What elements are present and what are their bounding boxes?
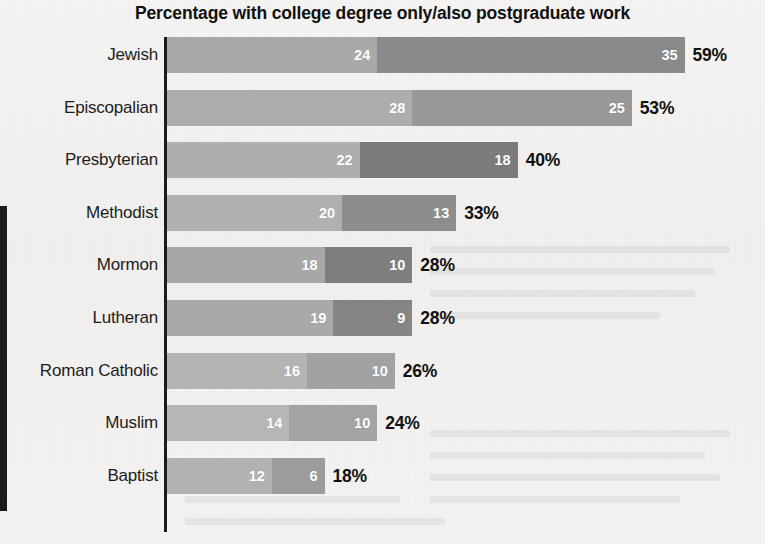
bar-row: Roman Catholic161026% [0,353,765,389]
stacked-bar: 1410 [167,405,378,441]
bar-segment-degree-only: 19 [167,300,334,336]
bar-segment-postgraduate: 6 [272,458,325,494]
bar-segment-value: 13 [433,205,456,221]
bar-group: 141024% [167,405,420,441]
bar-segment-value: 20 [319,205,342,221]
bar-group: 19928% [167,300,455,336]
bar-segment-value: 6 [309,468,324,484]
bar-row: Muslim141024% [0,405,765,441]
bar-group: 201333% [167,195,499,231]
bar-row-total: 33% [464,203,498,224]
bar-row-total: 24% [385,413,419,434]
bar-row: Episcopalian282553% [0,90,765,126]
bar-row-total: 53% [640,98,674,119]
stacked-bar: 2825 [167,90,632,126]
bar-segment-degree-only: 20 [167,195,343,231]
bar-group: 161026% [167,353,438,389]
bar-row: Baptist12618% [0,458,765,494]
bar-segment-degree-only: 24 [167,37,378,73]
bar-segment-value: 10 [354,415,377,431]
bar-segment-value: 19 [310,310,333,326]
bar-segment-postgraduate: 10 [325,247,413,283]
bar-group: 243559% [167,37,727,73]
bar-group: 181028% [167,247,455,283]
bar-row-total: 28% [420,255,454,276]
bar-segment-degree-only: 14 [167,405,290,441]
bar-row-label: Mormon [0,255,166,275]
chart-page: Percentage with college degree only/also… [0,0,765,544]
bar-segment-postgraduate: 13 [342,195,456,231]
bar-segment-value: 10 [389,257,412,273]
bar-row-total: 28% [420,308,454,329]
chart-title: Percentage with college degree only/also… [0,3,765,24]
bar-group: 12618% [167,458,367,494]
bar-segment-value: 16 [284,363,307,379]
stacked-bar: 126 [167,458,325,494]
bar-segment-postgraduate: 10 [307,353,395,389]
bar-row: Jewish243559% [0,37,765,73]
bar-row-label: Jewish [0,45,166,65]
bar-segment-degree-only: 22 [167,142,360,178]
bar-row-label: Roman Catholic [0,361,166,381]
bar-segment-value: 12 [249,468,272,484]
bar-segment-degree-only: 12 [167,458,272,494]
stacked-bar: 199 [167,300,413,336]
bar-segment-value: 24 [354,47,377,63]
bar-row-label: Baptist [0,466,166,486]
bar-row-total: 18% [333,466,367,487]
bar-segment-value: 14 [266,415,289,431]
bar-segment-degree-only: 18 [167,247,325,283]
bar-segment-value: 25 [609,100,632,116]
bar-row-label: Episcopalian [0,98,166,118]
stacked-bar: 2435 [167,37,685,73]
bar-row-label: Lutheran [0,308,166,328]
bar-segment-postgraduate: 18 [360,142,518,178]
bar-segment-value: 28 [389,100,412,116]
bar-row-label: Presbyterian [0,150,166,170]
bar-segment-value: 35 [661,47,684,63]
bar-segment-value: 22 [337,152,360,168]
bar-row: Presbyterian221840% [0,142,765,178]
bar-row-label: Muslim [0,413,166,433]
stacked-bar: 1810 [167,247,413,283]
stacked-bar: 2218 [167,142,518,178]
bar-segment-postgraduate: 25 [412,90,632,126]
bar-row-total: 59% [693,45,727,66]
plot-area: Jewish243559%Episcopalian282553%Presbyte… [0,36,765,536]
bar-segment-value: 18 [495,152,518,168]
bar-segment-degree-only: 16 [167,353,307,389]
bar-row-label: Methodist [0,203,166,223]
bar-row: Methodist201333% [0,195,765,231]
stacked-bar: 1610 [167,353,395,389]
bar-segment-value: 10 [372,363,395,379]
bar-row-total: 40% [526,150,560,171]
bar-segment-postgraduate: 9 [333,300,412,336]
bar-segment-value: 9 [397,310,412,326]
bar-row: Lutheran19928% [0,300,765,336]
bar-row-total: 26% [403,361,437,382]
bar-segment-postgraduate: 35 [377,37,684,73]
stacked-bar: 2013 [167,195,457,231]
bar-segment-postgraduate: 10 [289,405,377,441]
bar-row: Mormon181028% [0,247,765,283]
bar-group: 282553% [167,90,675,126]
bar-segment-value: 18 [301,257,324,273]
bar-segment-degree-only: 28 [167,90,413,126]
bar-group: 221840% [167,142,561,178]
